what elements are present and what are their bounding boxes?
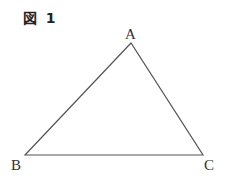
vertex-label-a: A: [125, 26, 136, 42]
vertex-label-c: C: [204, 157, 214, 173]
triangle-diagram: A B C: [0, 0, 229, 178]
vertex-label-b: B: [11, 157, 21, 173]
triangle-abc: [25, 43, 203, 155]
